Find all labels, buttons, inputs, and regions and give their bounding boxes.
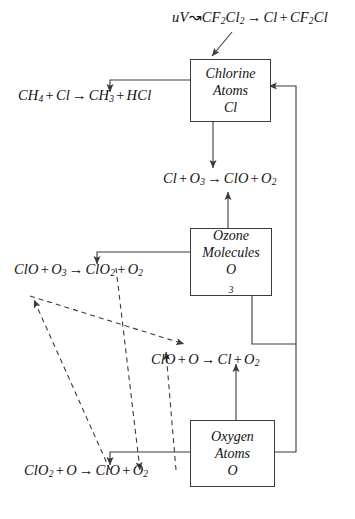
oxygen-reactant: O — [188, 351, 199, 367]
equation-photolysis: uV↝CF2Cl2→Cl+CF2Cl — [172, 10, 328, 27]
plus-sign: + — [54, 462, 66, 478]
plus-sign: + — [277, 9, 289, 25]
chlorine-product: Cl — [218, 351, 232, 367]
plus-sign: + — [249, 170, 261, 186]
box-oxygen-line3: O — [227, 462, 237, 479]
methyl-product: CH3 — [89, 87, 115, 103]
equation-methane: CH4+Cl→CH3+HCl — [18, 88, 151, 105]
reaction-arrow-icon: → — [77, 462, 96, 478]
arrow-cycle-return-to-chlorine — [269, 86, 296, 344]
oxygen-product: O2 — [133, 462, 149, 478]
plus-sign: + — [115, 261, 127, 277]
box-chlorine-line2: Atoms — [213, 82, 248, 99]
oxygen-product: O2 — [128, 261, 144, 277]
box-ozone-line3: O3 — [226, 261, 236, 297]
cfc-reactant: CF2Cl2 — [202, 9, 245, 25]
chlorine-reactant: Cl — [163, 170, 177, 186]
box-oxygen-line1: Oxygen — [211, 428, 254, 445]
line-oxygen-to-riser — [273, 344, 296, 452]
box-ozone-line1: Ozone — [213, 227, 249, 244]
clo2-product: ClO2 — [86, 261, 116, 277]
reaction-arrow-icon: → — [205, 170, 224, 186]
oxygen-reactant: O — [66, 462, 77, 478]
clo2-reactant: ClO2 — [24, 462, 54, 478]
box-oxygen-line2: Atoms — [215, 445, 250, 462]
reaction-arrow-icon: → — [199, 351, 218, 367]
ozone-cycle-diagram: uV↝CF2Cl2→Cl+CF2Cl CH4+Cl→CH3+HCl Cl+O3→… — [0, 0, 355, 519]
dashed-arrow-clo-ozone-to-clo-oxygen — [30, 296, 184, 344]
connector-lines — [0, 0, 355, 519]
oxygen-product: O2 — [261, 170, 277, 186]
uv-label: uV — [172, 9, 189, 25]
hcl-product: HCl — [127, 87, 152, 103]
plus-sign: + — [120, 462, 132, 478]
methane-reactant: CH4 — [18, 87, 44, 103]
ozone-reactant: O3 — [190, 170, 206, 186]
clo-reactant: ClO — [14, 261, 39, 277]
oxygen-product: O2 — [244, 351, 260, 367]
plus-sign: + — [114, 87, 126, 103]
squiggle-icon: ↝ — [189, 9, 202, 25]
ozone-reactant: O3 — [51, 261, 67, 277]
dashed-arrow-clo-ozone-to-clo2-oxygen — [116, 268, 140, 470]
reaction-arrow-icon: → — [245, 9, 264, 25]
equation-ozone-destruction: Cl+O3→ClO+O2 — [163, 171, 277, 188]
clo-product: ClO — [96, 462, 121, 478]
box-oxygen-atoms: Oxygen Atoms O — [190, 420, 275, 487]
dashed-arrow-clo2-oxygen-to-clo-oxygen — [166, 352, 176, 470]
product-cl: Cl — [263, 9, 277, 25]
chlorine-reactant: Cl — [56, 87, 70, 103]
box-chlorine-line1: Chlorine — [206, 65, 256, 82]
reaction-arrow-icon: → — [67, 261, 86, 277]
clo-reactant: ClO — [151, 351, 176, 367]
plus-sign: + — [176, 351, 188, 367]
line-ozone-to-riser — [252, 294, 296, 344]
equation-clo2-oxygen: ClO2+O→ClO+O2 — [24, 463, 148, 480]
box-ozone-molecules: Ozone Molecules O3 — [190, 228, 272, 296]
equation-clo-oxygen: ClO+O→Cl+O2 — [151, 352, 260, 369]
product-cf2cl: CF2Cl — [290, 9, 328, 25]
plus-sign: + — [177, 170, 189, 186]
box-ozone-line2: Molecules — [202, 244, 260, 261]
reaction-arrow-icon: → — [70, 87, 89, 103]
equation-clo-ozone: ClO+O3→ClO2+O2 — [14, 262, 143, 279]
plus-sign: + — [232, 351, 244, 367]
plus-sign: + — [39, 261, 51, 277]
clo-product: ClO — [224, 170, 249, 186]
box-chlorine-line3: Cl — [224, 99, 237, 116]
box-chlorine-atoms: Chlorine Atoms Cl — [190, 59, 271, 122]
plus-sign: + — [44, 87, 56, 103]
arrow-photolysis-to-chlorine — [212, 32, 232, 56]
dashed-arrow-clo2-oxygen-to-clo-ozone — [34, 300, 110, 470]
